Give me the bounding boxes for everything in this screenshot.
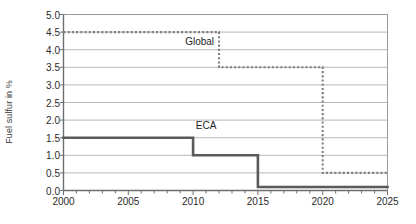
x-axis-tick-labels: 200020052010201520202025 [0,196,416,212]
x-axis-tick-label: 2000 [52,196,74,207]
series-line-eca [64,138,388,187]
x-axis-tick-label: 2020 [312,196,334,207]
x-axis-tick-label: 2005 [117,196,139,207]
x-axis-tick-label: 2025 [376,196,398,207]
sulfur-limit-chart: Fuel sulfur in % 0.00.51.01.52.02.53.03.… [0,0,416,224]
plot-area [0,0,416,224]
series-annotation-eca: ECA [196,120,217,131]
x-axis-tick-label: 2010 [182,196,204,207]
series-annotation-global: Global [185,36,214,47]
x-axis-tick-label: 2015 [247,196,269,207]
